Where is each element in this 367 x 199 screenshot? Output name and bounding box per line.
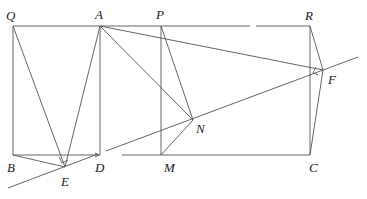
segment-RF bbox=[310, 26, 323, 70]
label-B: B bbox=[7, 160, 15, 175]
line-EF bbox=[8, 154, 98, 188]
segment-PN bbox=[161, 26, 193, 120]
label-D: D bbox=[94, 160, 105, 175]
label-E: E bbox=[60, 174, 69, 189]
segment-AF bbox=[100, 26, 323, 70]
segment-QE bbox=[13, 26, 65, 167]
line-EF-mid bbox=[106, 57, 358, 151]
label-R: R bbox=[304, 8, 313, 23]
label-C: C bbox=[309, 160, 318, 175]
segment-AE bbox=[65, 26, 100, 167]
segment-AN bbox=[100, 26, 193, 120]
label-Q: Q bbox=[6, 8, 16, 23]
label-M: M bbox=[163, 160, 176, 175]
geometry-diagram: Q A P R B E D M N C F bbox=[0, 0, 367, 199]
label-F: F bbox=[327, 72, 337, 87]
label-N: N bbox=[195, 121, 206, 136]
label-A: A bbox=[94, 7, 103, 22]
segment-MN bbox=[161, 120, 193, 155]
label-P: P bbox=[155, 7, 164, 22]
segment-BE bbox=[13, 155, 65, 167]
segment-CF bbox=[310, 70, 323, 155]
